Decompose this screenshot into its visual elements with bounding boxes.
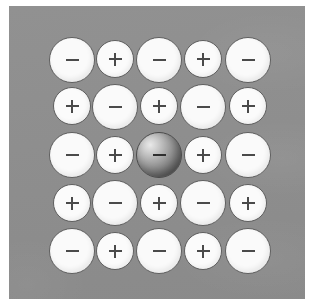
anion-r4c4 bbox=[180, 180, 226, 226]
plus-charge-icon bbox=[242, 100, 255, 113]
anion-r3c5 bbox=[225, 132, 271, 178]
plus-charge-icon bbox=[109, 53, 122, 66]
figure-title: Ionic crystal lattice cross-section bbox=[0, 0, 1, 1]
anion-r2c2 bbox=[92, 84, 138, 130]
anion-r4c2 bbox=[92, 180, 138, 226]
cation-r3c4 bbox=[184, 136, 222, 174]
anion-r2c4 bbox=[180, 84, 226, 130]
anion-r1c5 bbox=[225, 37, 271, 83]
minus-charge-icon bbox=[242, 59, 255, 61]
cation-r1c2 bbox=[96, 40, 134, 78]
plus-charge-icon bbox=[242, 197, 255, 210]
cation-r5c2 bbox=[96, 232, 134, 270]
cation-r1c4 bbox=[184, 40, 222, 78]
plus-charge-icon bbox=[66, 197, 79, 210]
minus-charge-icon bbox=[109, 106, 122, 108]
minus-charge-icon bbox=[66, 250, 79, 252]
minus-charge-icon bbox=[197, 106, 210, 108]
plus-charge-icon bbox=[109, 149, 122, 162]
minus-charge-icon bbox=[153, 250, 166, 252]
cation-r2c5 bbox=[229, 87, 267, 125]
plus-charge-icon bbox=[197, 149, 210, 162]
cation-r4c5 bbox=[229, 184, 267, 222]
minus-charge-icon bbox=[66, 154, 79, 156]
ionic-lattice-figure: Ionic crystal lattice cross-section bbox=[0, 0, 320, 299]
minus-charge-icon bbox=[197, 202, 210, 204]
anion-r1c1 bbox=[49, 37, 95, 83]
anion-r5c3 bbox=[136, 228, 182, 274]
anion-r5c1 bbox=[49, 228, 95, 274]
minus-charge-icon bbox=[153, 154, 166, 156]
plus-charge-icon bbox=[153, 197, 166, 210]
minus-charge-icon bbox=[242, 250, 255, 252]
anion-r5c5 bbox=[225, 228, 271, 274]
lattice-panel bbox=[9, 6, 305, 299]
plus-charge-icon bbox=[66, 100, 79, 113]
anion-r1c3 bbox=[136, 37, 182, 83]
plus-charge-icon bbox=[109, 245, 122, 258]
minus-charge-icon bbox=[109, 202, 122, 204]
cation-r2c3 bbox=[140, 87, 178, 125]
cation-r2c1 bbox=[53, 87, 91, 125]
plus-charge-icon bbox=[153, 100, 166, 113]
plus-charge-icon bbox=[197, 245, 210, 258]
minus-charge-icon bbox=[242, 154, 255, 156]
cation-r3c2 bbox=[96, 136, 134, 174]
cation-r4c1 bbox=[53, 184, 91, 222]
plus-charge-icon bbox=[197, 53, 210, 66]
cation-r5c4 bbox=[184, 232, 222, 270]
minus-charge-icon bbox=[66, 59, 79, 61]
anion-r3c1 bbox=[49, 132, 95, 178]
highlighted-anion-r3c3 bbox=[136, 132, 182, 178]
cation-r4c3 bbox=[140, 184, 178, 222]
minus-charge-icon bbox=[153, 59, 166, 61]
